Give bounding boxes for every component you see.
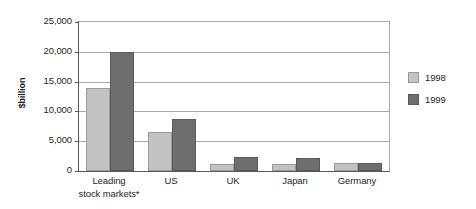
x-category-label-line: US [140,174,202,187]
x-category-label: Leadingstock markets* [78,174,140,200]
bar-group [334,22,382,171]
y-axis-tick-labels: 05,00010,00015,00020,00025,000 [18,21,72,170]
bar-1999 [110,52,134,171]
y-tick-label: 25,000 [18,16,72,26]
bar-1999 [172,119,196,171]
x-category-label-line: stock markets* [78,187,140,200]
x-axis-category-labels: Leadingstock markets*USUKJapanGermany [78,174,388,208]
x-category-label-line: Germany [326,174,388,187]
y-tick-mark [75,171,79,172]
x-category-label: Germany [326,174,388,187]
y-tick-label: 0 [18,165,72,175]
plot-area [78,21,390,172]
legend-label: 1999 [425,94,446,105]
bar-group [272,22,320,171]
bar-1998 [210,164,234,171]
bar-1998 [334,163,358,171]
y-tick-label: 20,000 [18,46,72,56]
bar-1999 [234,157,258,171]
bar-1998 [148,132,172,171]
legend-swatch-icon [408,72,419,83]
bar-1999 [296,158,320,171]
x-category-label: US [140,174,202,187]
x-category-label: UK [202,174,264,187]
y-tick-label: 10,000 [18,105,72,115]
chart-legend: 19981999 [408,72,472,116]
legend-swatch-icon [408,94,419,105]
bar-1998 [86,88,110,171]
bar-group [148,22,196,171]
bar-group [210,22,258,171]
legend-label: 1998 [425,72,446,83]
x-category-label-line: Leading [78,174,140,187]
bar-series-container [79,22,389,171]
bar-group [86,22,134,171]
y-tick-label: 5,000 [18,135,72,145]
x-category-label: Japan [264,174,326,187]
bar-1999 [358,163,382,171]
x-category-label-line: Japan [264,174,326,187]
legend-item: 1998 [408,72,472,83]
bar-chart-figure: $billion 05,00010,00015,00020,00025,000 … [0,0,476,209]
x-category-label-line: UK [202,174,264,187]
bar-1998 [272,164,296,171]
legend-item: 1999 [408,94,472,105]
y-tick-label: 15,000 [18,76,72,86]
